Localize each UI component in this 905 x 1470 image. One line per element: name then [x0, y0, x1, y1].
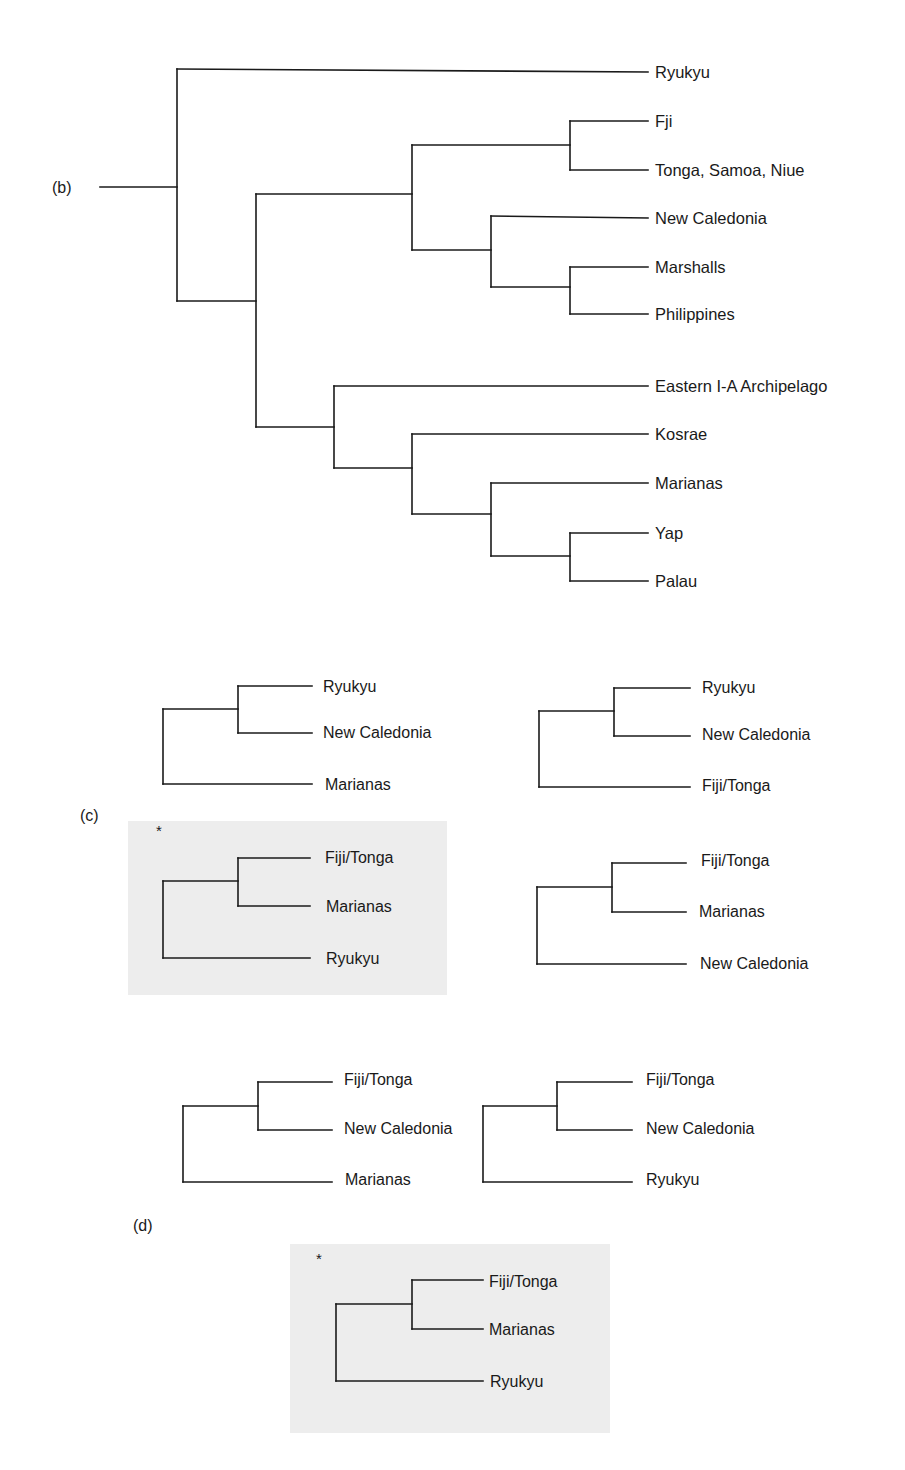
leaf-label: Marshalls [655, 258, 726, 276]
leaf-label: Ryukyu [655, 63, 710, 81]
leaf-label: Marianas [655, 474, 723, 492]
leaf-label: Yap [655, 524, 683, 542]
leaf-label: Fiji/Tonga [702, 777, 771, 794]
leaf-label: Marianas [345, 1171, 411, 1188]
panel-b: (b) [52, 63, 827, 590]
leaf-label: Fiji/Tonga [489, 1273, 558, 1290]
highlight-box [290, 1244, 610, 1433]
panel-label-c: (c) [80, 807, 99, 824]
leaf-label: Fiji/Tonga [325, 849, 394, 866]
tree-c2: Ryukyu New Caledonia Fiji/Tonga [539, 679, 811, 794]
panel-label-b: (b) [52, 179, 72, 196]
leaf-label: Ryukyu [702, 679, 755, 696]
leaf-label: Marianas [699, 903, 765, 920]
leaf-label: Fji [655, 112, 672, 130]
leaf-label: Fiji/Tonga [344, 1071, 413, 1088]
leaf-label: Marianas [326, 898, 392, 915]
tree-b-leaf-labels: Ryukyu Fji Tonga, Samoa, Niue New Caledo… [655, 63, 827, 590]
tree-b-branches [100, 69, 648, 581]
panel-c: (c) Ryukyu New Caledonia Marianas Ryukyu… [80, 678, 811, 995]
leaf-label: Ryukyu [323, 678, 376, 695]
leaf-label: New Caledonia [323, 724, 432, 741]
leaf-label: Palau [655, 572, 697, 590]
asterisk-marker: * [156, 822, 162, 839]
leaf-label: New Caledonia [655, 209, 768, 227]
leaf-label: Philippines [655, 305, 735, 323]
asterisk-marker: * [316, 1250, 322, 1267]
leaf-label: Tonga, Samoa, Niue [655, 161, 805, 179]
leaf-label: Fiji/Tonga [701, 852, 770, 869]
highlight-box [128, 821, 447, 995]
leaf-label: Marianas [325, 776, 391, 793]
panel-label-d: (d) [133, 1217, 153, 1234]
leaf-label: Eastern I-A Archipelago [655, 377, 827, 395]
leaf-label: Ryukyu [646, 1171, 699, 1188]
tree-c4: Fiji/Tonga Marianas New Caledonia [537, 852, 809, 972]
leaf-label: New Caledonia [702, 726, 811, 743]
tree-d3-highlighted: * Fiji/Tonga Marianas Ryukyu [290, 1244, 610, 1433]
leaf-label: Marianas [489, 1321, 555, 1338]
leaf-label: Kosrae [655, 425, 707, 443]
leaf-label: Fiji/Tonga [646, 1071, 715, 1088]
panel-d: Fiji/Tonga New Caledonia Marianas Fiji/T… [133, 1071, 755, 1433]
leaf-label: New Caledonia [646, 1120, 755, 1137]
tree-d2: Fiji/Tonga New Caledonia Ryukyu [483, 1071, 755, 1188]
tree-d1: Fiji/Tonga New Caledonia Marianas [183, 1071, 453, 1188]
leaf-label: Ryukyu [490, 1373, 543, 1390]
leaf-label: New Caledonia [700, 955, 809, 972]
phylogenetic-figure: (b) [0, 0, 905, 1470]
leaf-label: New Caledonia [344, 1120, 453, 1137]
leaf-label: Ryukyu [326, 950, 379, 967]
tree-c3-highlighted: * Fiji/Tonga Marianas Ryukyu [128, 821, 447, 995]
tree-c1: Ryukyu New Caledonia Marianas [163, 678, 432, 793]
